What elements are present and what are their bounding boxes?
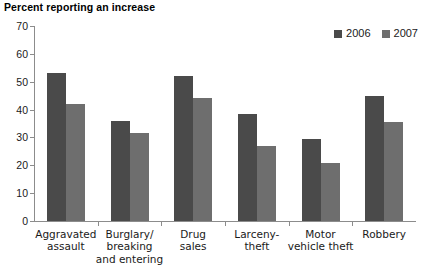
bar <box>384 122 403 221</box>
bar <box>130 133 149 221</box>
bar <box>193 98 212 221</box>
x-tick-mark <box>289 222 290 226</box>
y-tick-mark <box>30 82 34 83</box>
plot-area: 010203040506070 <box>34 26 416 222</box>
x-axis-labels: AggravatedassaultBurglary/breakingand en… <box>34 228 420 271</box>
y-tick-mark <box>30 137 34 138</box>
x-axis-label-line: and entering <box>92 253 168 265</box>
x-tick-mark <box>352 222 353 226</box>
bar-group <box>238 114 276 221</box>
bar-group <box>111 121 149 221</box>
bar <box>47 73 66 221</box>
bar <box>66 104 85 221</box>
x-axis-label-line: vehicle theft <box>283 240 359 252</box>
bar <box>174 76 193 221</box>
bar <box>321 163 340 222</box>
x-tick-mark <box>98 222 99 226</box>
y-tick-label: 10 <box>16 187 28 199</box>
bar <box>365 96 384 221</box>
x-axis-label-line: Robbery <box>346 228 422 240</box>
bar <box>238 114 257 221</box>
page-title: Percent reporting an increase <box>4 1 155 13</box>
y-tick-label: 70 <box>16 20 28 32</box>
y-tick-label: 40 <box>16 104 28 116</box>
y-tick-mark <box>30 193 34 194</box>
y-tick-label: 50 <box>16 76 28 88</box>
bar-group <box>302 139 340 221</box>
x-tick-mark <box>161 222 162 226</box>
bar-group <box>174 76 212 221</box>
x-axis-label: Robbery <box>346 228 422 240</box>
bar <box>111 121 130 221</box>
y-tick-mark <box>30 165 34 166</box>
y-tick-mark <box>30 54 34 55</box>
bar <box>257 146 276 221</box>
y-tick-mark <box>30 110 34 111</box>
bar-group <box>47 73 85 221</box>
bar-group <box>365 96 403 221</box>
y-tick-mark <box>30 221 34 222</box>
y-tick-mark <box>30 26 34 27</box>
y-tick-label: 60 <box>16 48 28 60</box>
bar <box>302 139 321 221</box>
y-axis-line <box>34 26 35 222</box>
y-tick-label: 30 <box>16 131 28 143</box>
y-tick-label: 0 <box>22 215 28 227</box>
x-tick-mark <box>225 222 226 226</box>
y-tick-label: 20 <box>16 159 28 171</box>
